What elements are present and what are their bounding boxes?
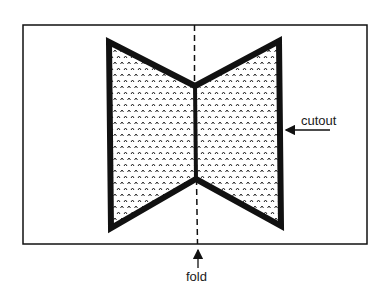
cutout-label: cutout bbox=[301, 114, 336, 127]
fold-label: fold bbox=[186, 270, 207, 283]
center-crease bbox=[195, 86, 196, 179]
fold-cutout-diagram bbox=[0, 0, 386, 302]
